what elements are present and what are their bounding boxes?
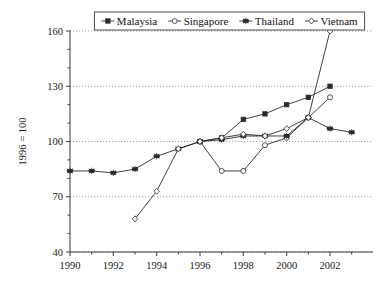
datapoint-thailand-1994	[153, 153, 160, 159]
y-tick-label-100: 100	[47, 136, 63, 147]
legend-label-malaysia: Malaysia	[117, 15, 157, 27]
legend-label-vietnam: Vietnam	[320, 15, 358, 27]
chart-container: 4070100130160199019921994199619982000200…	[0, 0, 390, 293]
datapoint-vietnam-2000	[284, 126, 289, 132]
x-tick-label-2002: 2002	[320, 260, 341, 271]
datapoint-thailand-1990	[67, 168, 74, 174]
datapoint-thailand-1991	[88, 168, 95, 174]
datapoint-singapore-1997	[219, 168, 224, 173]
x-tick-label-1998: 1998	[233, 260, 254, 271]
datapoint-thailand-1993	[132, 166, 139, 172]
legend-marker-star	[242, 18, 249, 24]
datapoint-thailand-2003	[348, 129, 355, 135]
data-series-group	[67, 28, 355, 222]
x-tick-label-2000: 2000	[276, 260, 297, 271]
series-line-thailand	[70, 118, 352, 173]
y-tick-label-160: 160	[47, 26, 63, 37]
series-thailand	[67, 114, 355, 176]
datapoint-malaysia-1998	[241, 117, 245, 121]
legend-group: MalaysiaSingaporeThailandVietnam	[94, 12, 364, 30]
x-tick-label-1992: 1992	[103, 260, 124, 271]
x-tick-label-1996: 1996	[190, 260, 211, 271]
legend-marker-filled-square	[106, 19, 110, 23]
y-tick-label-40: 40	[53, 247, 64, 258]
x-tick-label-1994: 1994	[146, 260, 168, 271]
datapoint-malaysia-2001	[306, 95, 310, 99]
datapoint-malaysia-1999	[263, 112, 267, 116]
y-axis-title: 1996 = 100	[17, 118, 28, 166]
datapoint-malaysia-2002	[328, 84, 332, 88]
legend-label-thailand: Thailand	[255, 15, 295, 27]
x-tick-label-1990: 1990	[60, 260, 81, 271]
datapoint-malaysia-2000	[284, 102, 288, 106]
legend-label-singapore: Singapore	[184, 15, 229, 27]
datapoint-thailand-1992	[110, 170, 117, 176]
datapoint-thailand-2002	[327, 125, 334, 131]
datapoint-singapore-1998	[241, 168, 246, 173]
y-tick-label-130: 130	[47, 81, 63, 92]
datapoint-thailand-2000	[283, 133, 290, 139]
series-vietnam	[132, 28, 332, 222]
datapoint-singapore-1999	[263, 143, 268, 148]
y-tick-label-70: 70	[53, 191, 64, 202]
axes-group	[66, 31, 373, 257]
line-chart: 4070100130160199019921994199619982000200…	[0, 0, 390, 293]
legend-marker-open-circle	[172, 19, 177, 24]
datapoint-singapore-2002	[328, 95, 333, 100]
